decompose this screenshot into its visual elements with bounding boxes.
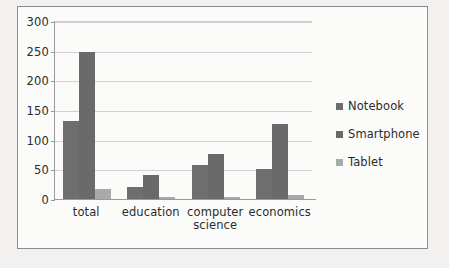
y-axis-tick-label: 250 — [26, 45, 49, 59]
x-axis-label: computer science — [183, 206, 248, 232]
bar-notebook-economics[interactable] — [256, 169, 272, 199]
legend-swatch-icon — [336, 103, 343, 110]
x-axis-label: total — [54, 206, 119, 232]
bar-notebook-education[interactable] — [127, 187, 143, 199]
legend-swatch-icon — [336, 131, 343, 138]
legend-item-smartphone[interactable]: Smartphone — [336, 127, 420, 141]
bar-tablet-economics[interactable] — [288, 195, 304, 199]
bar-tablet-computer-science[interactable] — [224, 197, 240, 199]
legend-item-tablet[interactable]: Tablet — [336, 155, 420, 169]
bar-smartphone-computer-science[interactable] — [208, 154, 224, 199]
bar-smartphone-total[interactable] — [79, 52, 95, 199]
bar-group — [184, 22, 248, 199]
y-axis-tick-label: 150 — [26, 104, 49, 118]
y-axis-tick-label: 100 — [26, 134, 49, 148]
bar-smartphone-education[interactable] — [143, 175, 159, 199]
x-axis-labels: totaleducationcomputer scienceeconomics — [54, 206, 312, 232]
y-axis-tick-mark — [51, 200, 55, 201]
chart-legend: NotebookSmartphoneTablet — [336, 99, 420, 169]
bar-smartphone-economics[interactable] — [272, 124, 288, 199]
legend-swatch-icon — [336, 159, 343, 166]
bar-group — [248, 22, 312, 199]
legend-item-notebook[interactable]: Notebook — [336, 99, 420, 113]
bar-notebook-total[interactable] — [63, 121, 79, 199]
y-axis-tick-label: 300 — [26, 15, 49, 29]
bar-groups — [55, 22, 312, 199]
bar-group — [119, 22, 183, 199]
bar-tablet-total[interactable] — [95, 189, 111, 199]
legend-label: Tablet — [348, 155, 383, 169]
x-axis-label: economics — [248, 206, 313, 232]
x-axis-baseline — [55, 199, 316, 200]
x-axis-label: education — [119, 206, 184, 232]
bar-tablet-education[interactable] — [159, 197, 175, 199]
plot-area: 050100150200250300 — [54, 21, 312, 200]
bar-notebook-computer-science[interactable] — [192, 165, 208, 199]
y-axis-tick-label: 50 — [34, 163, 49, 177]
y-axis-tick-label: 0 — [41, 193, 49, 207]
bar-group — [55, 22, 119, 199]
legend-label: Notebook — [348, 99, 404, 113]
y-axis-tick-label: 200 — [26, 74, 49, 88]
legend-label: Smartphone — [348, 127, 420, 141]
chart-figure: 050100150200250300 totaleducationcompute… — [17, 6, 428, 249]
